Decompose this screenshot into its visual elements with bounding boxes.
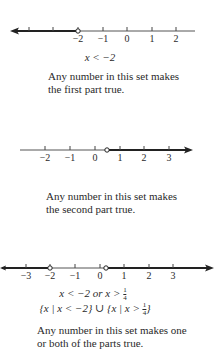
tick-label: 1 xyxy=(150,33,155,44)
tick-label: 1 xyxy=(122,270,127,281)
tick-label: 2 xyxy=(174,33,179,44)
caption-line: the second part true. xyxy=(46,203,177,216)
inequality-first: x < −2 xyxy=(85,51,116,63)
tick-label: −2 xyxy=(45,270,56,281)
tick-label: −1 xyxy=(65,152,76,163)
caption-line: or both of the parts true. xyxy=(37,337,187,350)
tick-label: 2 xyxy=(142,152,147,163)
tick-label: −2 xyxy=(40,152,51,163)
tick-label: 1 xyxy=(118,152,123,163)
tick-label: −1 xyxy=(98,33,109,44)
caption-line: Any number in this set makes xyxy=(48,70,179,83)
caption-union: Any number in this set makes one or both… xyxy=(37,324,187,350)
fraction-one-fourth: 14 xyxy=(123,287,127,302)
tick-label: −3 xyxy=(21,270,32,281)
tick-label: −1 xyxy=(70,270,81,281)
tick-label: 0 xyxy=(98,270,103,281)
caption-second: Any number in this set makes the second … xyxy=(46,190,177,216)
inequality-union: x < −2 or x > 14 xyxy=(59,287,126,302)
open-circle-icon xyxy=(105,148,109,152)
union-symbol: ∪ xyxy=(95,302,104,314)
tick-label: 2 xyxy=(147,270,152,281)
open-circle-icon xyxy=(104,266,108,270)
tick-label: 0 xyxy=(93,152,98,163)
caption-line: Any number in this set makes xyxy=(46,190,177,203)
set-notation-union: {x | x < −2} ∪ {x | x > 14} xyxy=(39,302,150,317)
tick-label: 3 xyxy=(171,270,176,281)
number-line-3 xyxy=(0,264,214,272)
tick-label: 0 xyxy=(125,33,130,44)
tick-label: 3 xyxy=(167,152,172,163)
tick-label: −2 xyxy=(73,33,84,44)
caption-line: the first part true. xyxy=(48,83,179,96)
caption-line: Any number in this set makes one xyxy=(37,324,187,337)
caption-first: Any number in this set makes the first p… xyxy=(48,70,179,96)
